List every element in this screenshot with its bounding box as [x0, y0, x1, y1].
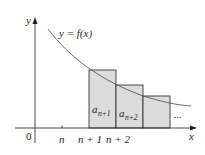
tick-label-n-plus-1: n + 1 — [78, 133, 102, 145]
origin-label: 0 — [26, 130, 32, 142]
curve-label: y = f(x) — [58, 27, 92, 40]
y-axis-arrow-icon — [33, 17, 38, 24]
rect-label-a-sub-2: n+2 — [125, 113, 138, 122]
y-axis-label: y — [25, 14, 31, 26]
rect-label-a-sub-1: n+1 — [98, 109, 111, 118]
tick-label-n-plus-2: n + 2 — [106, 133, 130, 145]
tick-label-n: n — [59, 133, 65, 145]
rectangle-a-n-plus-1 — [89, 70, 116, 128]
diagram: y x 0 y = f(x) n n + 1 n + 2 a n+1 a n+2… — [0, 0, 205, 155]
x-axis-label: x — [188, 130, 194, 142]
rectangle-a-n-plus-3 — [143, 96, 170, 128]
continuation-ellipsis: ... — [174, 109, 182, 120]
